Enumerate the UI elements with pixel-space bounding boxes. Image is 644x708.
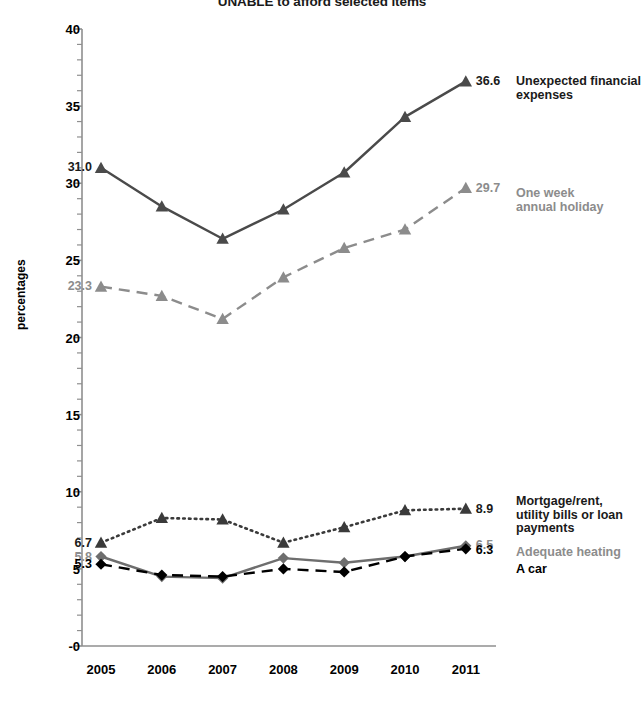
data-point-marker — [339, 566, 350, 577]
data-point-marker — [95, 559, 106, 570]
series-end-value-label: 6.3 — [476, 543, 493, 557]
data-point-marker — [156, 569, 167, 580]
data-point-marker — [216, 313, 228, 324]
series-2 — [95, 503, 472, 548]
data-point-marker — [156, 200, 168, 211]
x-axis-tick-label: 2008 — [269, 662, 298, 677]
data-point-marker — [460, 75, 472, 86]
x-axis-tick-label: 2009 — [330, 662, 359, 677]
series-1 — [95, 182, 472, 324]
data-point-marker — [217, 571, 228, 582]
data-point-marker — [95, 280, 107, 291]
y-axis-tick-label: 40 — [66, 22, 80, 37]
x-axis-tick-label: 2006 — [147, 662, 176, 677]
series-start-value-label: 23.3 — [68, 279, 92, 293]
y-axis-tick-label: 35 — [66, 99, 80, 114]
data-point-marker — [278, 552, 289, 563]
data-point-marker — [460, 182, 472, 193]
data-point-marker — [277, 271, 289, 282]
series-start-value-label: 5.3 — [75, 557, 92, 571]
data-point-marker — [277, 203, 289, 214]
legend-entry-label: Mortgage/rent, utility bills or loan pay… — [516, 495, 623, 536]
series-end-value-label: 36.6 — [476, 74, 500, 88]
data-point-marker — [278, 563, 289, 574]
data-point-marker — [95, 162, 107, 173]
legend-entry-label: Adequate heating — [516, 546, 621, 560]
y-axis-tick-label: 20 — [66, 330, 80, 345]
legend-entry-label: A car — [516, 563, 547, 577]
y-axis-tick-label: 10 — [66, 484, 80, 499]
y-axis-tick-label: -0 — [68, 639, 80, 654]
data-point-marker — [338, 521, 350, 532]
legend-entry-label: Unexpected financial expenses — [516, 75, 644, 102]
chart-container: UNABLE to afford selected items percenta… — [0, 0, 644, 708]
data-point-marker — [399, 223, 411, 234]
x-axis-tick-label: 2010 — [391, 662, 420, 677]
y-axis-tick-label: 30 — [66, 176, 80, 191]
series-line — [101, 81, 466, 238]
plot-area — [0, 0, 644, 708]
legend-entry-label: One week annual holiday — [516, 187, 604, 214]
y-axis-tick-label: 15 — [66, 407, 80, 422]
x-axis-tick-label: 2011 — [452, 662, 480, 677]
series-end-value-label: 29.7 — [476, 181, 500, 195]
series-end-value-label: 8.9 — [476, 502, 493, 516]
series-start-value-label: 6.7 — [75, 536, 92, 550]
series-start-value-label: 31.0 — [68, 160, 92, 174]
data-point-marker — [95, 536, 107, 547]
data-point-marker — [399, 111, 411, 122]
x-axis-tick-label: 2005 — [87, 662, 116, 677]
data-point-marker — [399, 551, 410, 562]
y-axis-tick-label: 25 — [66, 253, 80, 268]
data-point-marker — [216, 233, 228, 244]
x-axis-tick-label: 2007 — [208, 662, 237, 677]
series-0 — [95, 75, 472, 244]
